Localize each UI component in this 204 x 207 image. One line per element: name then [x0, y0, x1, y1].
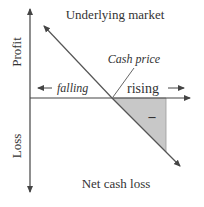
rising-label: rising	[127, 81, 159, 96]
y-axis-label-loss: Loss	[9, 134, 24, 159]
hedge-diagram: Underlying market Net cash loss Profit L…	[0, 0, 204, 207]
cash-price-label: Cash price	[108, 52, 161, 66]
title-top: Underlying market	[66, 7, 165, 22]
y-axis-label-profit: Profit	[9, 37, 24, 67]
title-bottom: Net cash loss	[82, 176, 151, 191]
falling-label: falling	[57, 81, 88, 95]
region-sign: –	[148, 109, 157, 124]
